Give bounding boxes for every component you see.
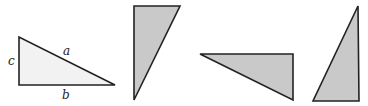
label-base-b: b <box>62 88 70 102</box>
triangle-2 <box>134 6 180 100</box>
label-height-c: c <box>8 54 15 68</box>
right-triangles-diagram: a b c <box>0 0 368 106</box>
label-hypotenuse-a: a <box>63 44 70 58</box>
triangle-3 <box>200 54 293 100</box>
triangle-4 <box>313 6 359 101</box>
